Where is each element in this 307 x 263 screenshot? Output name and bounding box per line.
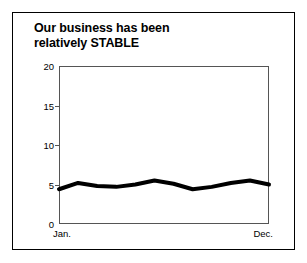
data-line-series-business <box>59 181 269 190</box>
x-axis-tick-label-dec: Dec. <box>253 228 273 239</box>
chart-title: Our business has been relatively STABLE <box>34 21 269 50</box>
y-axis-tick-label-20: 20 <box>43 61 54 72</box>
chart-title-line-1: Our business has been <box>34 21 269 36</box>
y-axis-tick-label-5: 5 <box>49 179 54 190</box>
figure-frame: Our business has been relatively STABLE … <box>12 12 295 250</box>
y-axis-tick-label-10: 10 <box>43 140 54 151</box>
data-line-svg <box>59 66 269 224</box>
plot-area: 20 15 10 5 0 Jan. Dec. <box>59 66 269 224</box>
chart-title-line-2: relatively STABLE <box>34 36 269 51</box>
y-axis-tick-label-15: 15 <box>43 100 54 111</box>
x-axis-tick-label-jan: Jan. <box>53 228 71 239</box>
